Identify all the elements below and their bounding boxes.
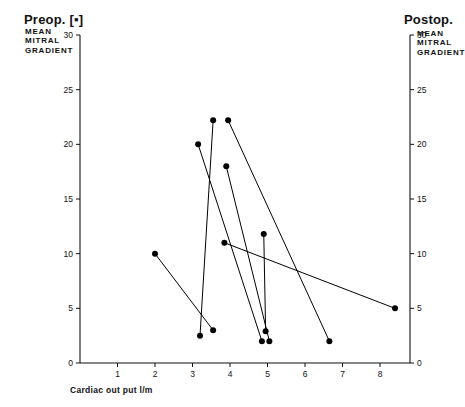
connector-line [200, 120, 213, 335]
preop-point-marker [225, 117, 231, 123]
x-tick-label: 3 [190, 369, 195, 379]
postop-point-marker [326, 338, 332, 344]
left-y-tick-label: 5 [68, 303, 73, 313]
right-y-tick-label: 20 [417, 139, 427, 149]
data-series-layer [152, 117, 398, 344]
series-patient-1 [152, 251, 216, 334]
x-tick-label: 4 [228, 369, 233, 379]
x-tick-label: 8 [378, 369, 383, 379]
left-y-tick-label: 15 [64, 194, 74, 204]
preop-point-marker [221, 240, 227, 246]
preop-point-marker [210, 117, 216, 123]
right-y-tick-label: 0 [417, 358, 422, 368]
right-y-tick-label: 15 [417, 194, 427, 204]
postop-point-marker [259, 338, 265, 344]
chart-page: Preop. [▪] MEAN MITRAL GRADIENT Postop. … [0, 0, 465, 407]
postop-point-marker [210, 327, 216, 333]
preop-point-marker [223, 163, 229, 169]
connector-line [228, 120, 329, 341]
left-y-tick-label: 25 [64, 85, 74, 95]
left-y-tick-label: 30 [64, 30, 74, 40]
right-y-tick-label: 25 [417, 85, 427, 95]
connector-line [226, 166, 269, 341]
postop-point-marker [392, 305, 398, 311]
connector-line [264, 234, 266, 331]
postop-point-marker [263, 328, 269, 334]
postop-point-marker [197, 333, 203, 339]
left-y-tick-label: 20 [64, 139, 74, 149]
right-y-tick-label: 10 [417, 249, 427, 259]
x-tick-label: 1 [115, 369, 120, 379]
chart-plot-area: 05101520253005101520253012345678 [0, 0, 465, 407]
x-tick-label: 2 [153, 369, 158, 379]
axis-layer: 05101520253005101520253012345678 [64, 30, 427, 379]
right-y-tick-label: 5 [417, 303, 422, 313]
left-y-tick-label: 0 [68, 358, 73, 368]
postop-point-marker [266, 338, 272, 344]
series-patient-6 [261, 231, 269, 334]
left-y-tick-label: 10 [64, 249, 74, 259]
x-tick-label: 5 [265, 369, 270, 379]
preop-point-marker [152, 251, 158, 257]
x-tick-label: 6 [303, 369, 308, 379]
x-tick-label: 7 [340, 369, 345, 379]
preop-point-marker [261, 231, 267, 237]
series-patient-7 [221, 240, 398, 312]
right-y-tick-label: 30 [417, 30, 427, 40]
series-patient-4 [225, 117, 332, 344]
preop-point-marker [195, 141, 201, 147]
